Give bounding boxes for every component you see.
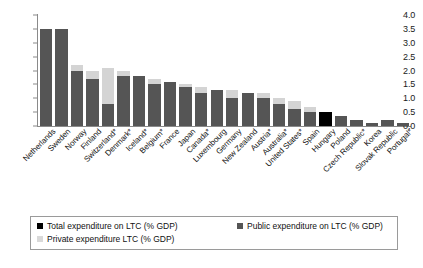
legend-label-private: Private expenditure LTC (% GDP) bbox=[47, 234, 174, 244]
bar-column bbox=[211, 90, 223, 126]
bar-column bbox=[71, 65, 83, 126]
bar-segment-total bbox=[319, 112, 331, 126]
bar-column bbox=[164, 82, 176, 126]
bar-column bbox=[86, 71, 98, 126]
bar-column bbox=[102, 68, 114, 126]
y-axis-tick-mark bbox=[33, 84, 37, 85]
bar-column bbox=[335, 116, 347, 126]
bar-column bbox=[381, 120, 393, 126]
bar-segment-public bbox=[288, 109, 300, 126]
bar-segment-public bbox=[226, 98, 238, 126]
bar-segment-private bbox=[288, 101, 300, 109]
bar-segment-public bbox=[133, 76, 145, 126]
bar-column bbox=[117, 71, 129, 126]
bar-column bbox=[226, 90, 238, 126]
bar-segment-public bbox=[350, 120, 362, 126]
legend-swatch-public-icon bbox=[237, 223, 243, 229]
bar-segment-public bbox=[381, 120, 393, 126]
legend-item-private: Private expenditure LTC (% GDP) bbox=[37, 234, 237, 244]
legend-item-public: Public expenditure on LTC (% GDP) bbox=[237, 221, 383, 231]
bar-column bbox=[319, 112, 331, 126]
y-axis-tick-mark bbox=[33, 15, 37, 16]
bar-segment-public bbox=[304, 112, 316, 126]
y-axis-tick-mark bbox=[33, 112, 37, 113]
bar-column bbox=[242, 93, 254, 126]
bar-column bbox=[288, 101, 300, 126]
legend-row-2: Private expenditure LTC (% GDP) bbox=[37, 234, 391, 247]
y-axis-tick-mark bbox=[33, 42, 37, 43]
y-axis-tick-mark bbox=[33, 70, 37, 71]
bar-column bbox=[179, 84, 191, 126]
bar-segment-public bbox=[195, 93, 207, 126]
y-axis-tick-mark bbox=[33, 28, 37, 29]
y-axis-tick-mark bbox=[33, 98, 37, 99]
bar-segment-public bbox=[257, 98, 269, 126]
bar-segment-public bbox=[211, 90, 223, 126]
bar-segment-public bbox=[117, 76, 129, 126]
ltc-expenditure-chart: 4.03.53.02.52.01.51.00.50.0 NetherlandsS… bbox=[0, 0, 423, 268]
legend-label-total: Total expenditure on LTC (% GDP) bbox=[47, 221, 178, 231]
bar-segment-public bbox=[71, 71, 83, 127]
legend-swatch-total-icon bbox=[37, 223, 43, 229]
legend-swatch-private-icon bbox=[37, 236, 43, 242]
bar-column bbox=[257, 93, 269, 126]
bar-segment-public bbox=[164, 82, 176, 126]
bar-segment-public bbox=[40, 29, 52, 126]
x-axis-label-group: NetherlandsSwedenNorwayFinlandSwitzerlan… bbox=[0, 127, 423, 217]
legend-row-1: Total expenditure on LTC (% GDP) Public … bbox=[37, 221, 391, 234]
bar-segment-public bbox=[55, 29, 67, 126]
bar-segment-public bbox=[179, 87, 191, 126]
bar-group bbox=[38, 15, 411, 126]
bar-column bbox=[148, 79, 160, 126]
bar-segment-public bbox=[148, 84, 160, 126]
bar-column bbox=[350, 120, 362, 126]
bar-segment-public bbox=[273, 104, 285, 126]
bar-column bbox=[273, 98, 285, 126]
bar-column bbox=[133, 76, 145, 126]
chart-legend: Total expenditure on LTC (% GDP) Public … bbox=[30, 216, 398, 250]
y-axis-tick-mark bbox=[33, 56, 37, 57]
bar-segment-public bbox=[102, 104, 114, 126]
bar-column bbox=[195, 87, 207, 126]
legend-item-total: Total expenditure on LTC (% GDP) bbox=[37, 221, 237, 231]
bar-segment-private bbox=[86, 71, 98, 79]
bar-column bbox=[55, 29, 67, 126]
bar-segment-private bbox=[226, 90, 238, 98]
legend-label-public: Public expenditure on LTC (% GDP) bbox=[247, 221, 383, 231]
bar-column bbox=[304, 107, 316, 126]
bar-segment-public bbox=[86, 79, 98, 126]
bar-column bbox=[40, 29, 52, 126]
bar-segment-private bbox=[102, 68, 114, 104]
bar-segment-public bbox=[242, 93, 254, 126]
bar-segment-public bbox=[335, 116, 347, 126]
